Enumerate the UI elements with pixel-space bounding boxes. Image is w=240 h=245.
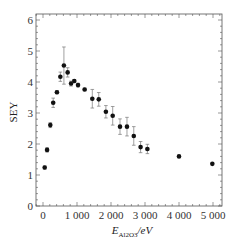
data-point [76, 83, 81, 88]
data-point [42, 165, 47, 170]
x-tick-label: 3 000 [133, 209, 158, 221]
data-point [55, 90, 60, 95]
data-point [82, 87, 87, 92]
x-axis-label: EAl2O3/eV [111, 224, 154, 239]
data-point [131, 134, 136, 139]
data-point [62, 63, 67, 68]
data-point [72, 79, 77, 84]
data-point [118, 124, 123, 129]
data-point [51, 100, 56, 105]
data-points [42, 47, 214, 170]
x-axis-label-unit: /eV [137, 224, 154, 236]
y-axis-label: SEY [7, 102, 19, 123]
y-tick-labels: 0123456 [28, 14, 34, 212]
x-tick-labels: 01 0002 0003 0004 0005 000 [40, 209, 226, 221]
data-point [58, 74, 63, 79]
data-point [210, 162, 215, 167]
y-tick-label: 6 [28, 14, 34, 26]
data-point [65, 70, 70, 75]
y-tick-label: 1 [28, 169, 34, 181]
axis-ticks [36, 14, 222, 206]
data-point [138, 145, 143, 150]
data-point [104, 109, 109, 114]
sey-chart: 01 0002 0003 0004 0005 000 0123456 SEY E… [0, 0, 240, 245]
data-point [45, 148, 50, 153]
y-tick-label: 5 [28, 45, 34, 57]
x-tick-label: 1 000 [65, 209, 90, 221]
data-point [90, 96, 95, 101]
x-tick-label: 0 [40, 209, 46, 221]
data-point [177, 154, 182, 159]
plot-frame [36, 14, 222, 206]
data-point [145, 147, 150, 152]
data-point [110, 113, 115, 118]
data-point [125, 124, 130, 129]
x-tick-label: 2 000 [99, 209, 124, 221]
x-axis-label-subscript: Al2O3 [119, 231, 139, 239]
y-tick-label: 3 [28, 107, 34, 119]
data-point [48, 123, 53, 128]
y-tick-label: 2 [28, 138, 34, 150]
data-point [96, 97, 101, 102]
x-tick-label: 5 000 [201, 209, 226, 221]
x-tick-label: 4 000 [167, 209, 192, 221]
y-tick-label: 4 [28, 76, 34, 88]
y-tick-label: 0 [28, 200, 34, 212]
